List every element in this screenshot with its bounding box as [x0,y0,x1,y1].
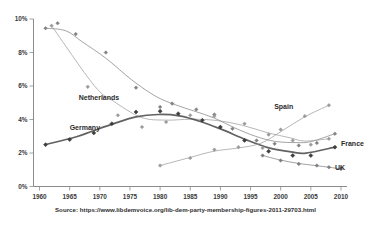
data-point [291,154,295,158]
data-point [134,110,138,114]
data-point [261,154,265,158]
y-tick-label: 6% [18,82,28,89]
data-point [255,139,259,143]
data-point [170,102,174,106]
data-point [44,26,48,30]
chart-container: 0%2%4%6%8%10% 19601965197019751980198519… [0,0,371,228]
data-point [158,105,162,109]
data-point [44,143,48,147]
data-point [56,21,60,25]
data-point [188,114,192,118]
data-point [297,162,301,166]
y-tick-label: 2% [18,149,28,156]
chart-plot-area: 0%2%4%6%8%10% 19601965197019751980198519… [0,0,371,228]
x-tick-label: 1980 [153,193,168,200]
trend-curve-germany [46,114,335,153]
series-label-netherlands: Netherlands [79,94,120,101]
data-point [194,108,198,112]
data-point [158,109,162,113]
series-annotations-layer: NetherlandsGermanySpainFranceUK [70,94,364,171]
data-point [279,159,283,163]
data-point [116,114,120,118]
y-axis: 0%2%4%6%8%10% [15,15,34,190]
x-tick-label: 1960 [32,193,47,200]
y-tick-label: 0% [18,183,28,190]
data-point [315,164,319,168]
x-tick-label: 2005 [304,193,319,200]
data-point [74,32,78,36]
x-axis: 1960196519701975198019851990199520002005… [32,187,348,200]
x-tick-label: 1985 [183,193,198,200]
y-tick-label: 8% [18,49,28,56]
data-point [267,149,271,153]
data-point [164,120,168,124]
x-tick-label: 1970 [93,193,108,200]
y-tick-label: 10% [15,15,28,22]
series-label-france: France [341,140,364,147]
data-point [104,51,108,55]
x-tick-label: 1990 [213,193,228,200]
data-point [86,85,90,89]
data-point [333,145,337,149]
data-point [327,103,331,107]
series-label-germany: Germany [70,124,100,132]
data-point [309,154,313,158]
data-point [134,86,138,90]
x-tick-label: 2010 [334,193,349,200]
series-label-uk: UK [335,164,345,171]
data-point [243,122,247,126]
x-tick-label: 1975 [123,193,138,200]
series-points-uk [261,154,343,171]
data-point [273,142,277,146]
trend-curve-spain [160,105,329,165]
series-points-spain [158,103,330,167]
data-point [297,144,301,148]
y-tick-label: 4% [18,116,28,123]
data-point [315,141,319,145]
x-tick-label: 2000 [274,193,289,200]
x-tick-label: 1995 [243,193,258,200]
series-label-spain: Spain [274,103,293,111]
source-caption: Source: https://www.libdemvoice.org/lib-… [0,206,371,213]
data-point [327,137,331,141]
x-axis-ticks: 1960196519701975198019851990199520002005… [32,187,348,200]
data-point [309,143,313,147]
data-point [333,132,337,136]
y-axis-ticks: 0%2%4%6%8%10% [15,15,34,190]
data-point [327,165,331,169]
x-tick-label: 1965 [63,193,78,200]
data-point [140,125,144,129]
data-point [158,164,162,168]
